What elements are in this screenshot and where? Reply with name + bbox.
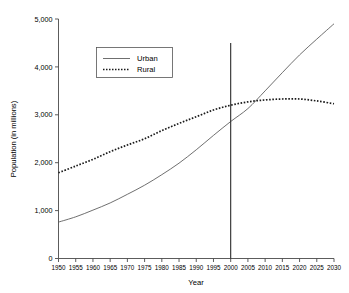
x-tick-label: 2010	[258, 264, 273, 271]
x-tick-label: 1955	[69, 264, 84, 271]
x-tick-label: 2020	[293, 264, 308, 271]
chart-legend: Urban Rural	[97, 48, 173, 78]
x-tick-label: 2005	[241, 264, 256, 271]
x-axis-tick-labels: 1950195519601965197019751980198519901995…	[51, 264, 341, 271]
x-tick-label: 1975	[138, 264, 153, 271]
y-tick-label: 2,000	[35, 158, 53, 167]
chart-container: 01,0002,0003,0004,0005,000 1950195519601…	[0, 0, 349, 293]
y-tick-label: 5,000	[35, 15, 53, 24]
legend-box	[97, 48, 173, 78]
y-tick-label: 4,000	[35, 63, 53, 72]
y-tick-label: 1,000	[35, 206, 53, 215]
x-tick-label: 1950	[51, 264, 66, 271]
legend-label-rural: Rural	[137, 65, 155, 74]
legend-label-urban: Urban	[137, 54, 158, 63]
x-tick-label: 1990	[189, 264, 204, 271]
x-tick-label: 2025	[310, 264, 325, 271]
population-line-chart: 01,0002,0003,0004,0005,000 1950195519601…	[0, 0, 349, 293]
x-tick-label: 1995	[206, 264, 221, 271]
x-tick-label: 1985	[172, 264, 187, 271]
x-tick-label: 2030	[327, 264, 342, 271]
x-tick-label: 1965	[103, 264, 118, 271]
y-tick-label: 0	[49, 254, 53, 263]
chart-background	[0, 0, 349, 293]
x-tick-label: 1960	[86, 264, 101, 271]
x-tick-label: 2000	[224, 264, 239, 271]
y-axis-title: Population (in millions)	[9, 100, 18, 177]
x-tick-label: 1970	[120, 264, 135, 271]
x-tick-label: 2015	[275, 264, 290, 271]
x-axis-title: Year	[188, 278, 204, 287]
y-tick-label: 3,000	[35, 110, 53, 119]
x-tick-label: 1980	[155, 264, 170, 271]
